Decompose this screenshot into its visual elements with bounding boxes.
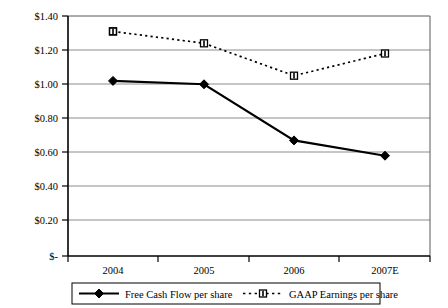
- x-axis-label-2007e: 2007E: [371, 265, 398, 276]
- x-axis-label-2005: 2005: [194, 265, 215, 276]
- x-axis-labels: 2004 2005 2006 2007E: [103, 265, 399, 276]
- y-axis-label-000: $-: [49, 251, 58, 262]
- y-axis-ticks: [62, 16, 68, 256]
- y-axis-label-100: $1.00: [34, 79, 58, 90]
- legend-label-free-cash-flow: Free Cash Flow per share: [125, 289, 233, 300]
- y-axis-label-040: $0.40: [34, 181, 58, 192]
- x-axis-ticks: [68, 256, 430, 262]
- y-axis-label-120: $1.20: [34, 45, 58, 56]
- chart-legend: Free Cash Flow per share GAAP Earnings p…: [72, 283, 398, 304]
- y-axis-label-080: $0.80: [34, 113, 58, 124]
- legend-label-gaap-earnings: GAAP Earnings per share: [289, 289, 398, 300]
- y-axis-labels: $1.40 $1.20 $1.00 $0.80 $0.60 $0.40 $0.2…: [34, 11, 58, 262]
- x-axis-label-2004: 2004: [103, 265, 125, 276]
- line-chart: $1.40 $1.20 $1.00 $0.80 $0.60 $0.40 $0.2…: [0, 0, 448, 308]
- y-axis-label-060: $0.60: [34, 147, 58, 158]
- chart-container: $1.40 $1.20 $1.00 $0.80 $0.60 $0.40 $0.2…: [0, 0, 448, 308]
- y-axis-label-140: $1.40: [34, 11, 58, 22]
- x-axis-label-2006: 2006: [284, 265, 305, 276]
- y-axis-label-020: $0.20: [34, 215, 58, 226]
